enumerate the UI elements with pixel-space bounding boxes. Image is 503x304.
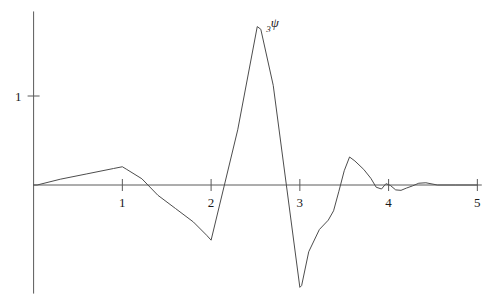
chart-annotations: 3ψ (265, 15, 280, 34)
x-tick-label-5: 5 (474, 195, 481, 210)
y-axis-ticks: 1 (15, 89, 39, 104)
x-tick-label-2: 2 (208, 195, 215, 210)
wavelet-plot-figure: 12345 1 3ψ (0, 0, 503, 304)
curve-label: 3ψ (265, 15, 280, 34)
wavelet-curve (34, 27, 478, 288)
x-tick-label-3: 3 (297, 195, 304, 210)
y-tick-label-1: 1 (15, 89, 22, 104)
data-series-group (34, 27, 478, 288)
axes-group (34, 11, 482, 293)
x-tick-label-4: 4 (385, 195, 392, 210)
curve-label-symbol: ψ (271, 15, 280, 30)
chart-canvas: 12345 1 3ψ (0, 0, 503, 304)
x-axis-ticks: 12345 (119, 179, 481, 210)
x-tick-label-1: 1 (119, 195, 126, 210)
